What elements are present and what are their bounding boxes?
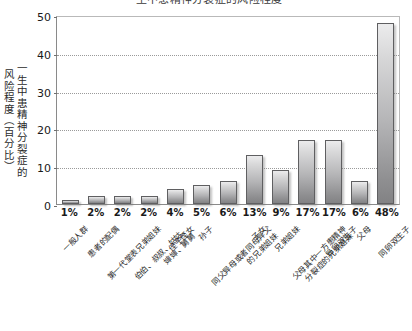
bar-value-label: 9% (268, 207, 294, 221)
bar-slot (83, 17, 109, 204)
x-tick-slot: 患者的配偶 (82, 221, 108, 331)
bar-value-label: 2% (82, 207, 108, 221)
bar-slot (346, 17, 372, 204)
bar-value-labels: 1%2%2%2%4%5%6%13%9%17%17%6%48% (56, 207, 400, 221)
bar[interactable] (193, 185, 210, 204)
bar-slot (241, 17, 267, 204)
x-tick-slot: 伯伯、叔叔、姑姑、婶婶、舅舅 (135, 221, 161, 331)
x-tick-slot: 同父异母或者同母异父的兄弟姐妹 (215, 221, 241, 331)
plot-area: 01020304050 (56, 16, 400, 205)
bar[interactable] (298, 140, 315, 204)
bar-slot (110, 17, 136, 204)
bar[interactable] (141, 196, 158, 204)
bar-slot (136, 17, 162, 204)
bar-slot (268, 17, 294, 204)
x-tick-slot: 异卵双生子 (321, 221, 347, 331)
bar[interactable] (246, 155, 263, 204)
x-tick-slot: 第一代堂表兄弟姐妹 (109, 221, 135, 331)
x-tick-slot: 同卵双生子 (374, 221, 400, 331)
bar-value-label: 2% (109, 207, 135, 221)
bar-value-label: 2% (135, 207, 161, 221)
bar-slot (294, 17, 320, 204)
x-axis-category-labels: 一般人群患者的配偶第一代堂表兄弟姐妹伯伯、叔叔、姑姑、婶婶、舅舅侄子侄女孙子同父… (56, 221, 400, 331)
y-axis-title-line2: 风险程度（百分比） (3, 69, 15, 173)
bar-slot (57, 17, 83, 204)
bar-series (57, 17, 399, 204)
bar-value-label: 13% (241, 207, 267, 221)
bar-value-label: 6% (215, 207, 241, 221)
bar-value-label: 17% (321, 207, 347, 221)
bar[interactable] (351, 181, 368, 204)
bar[interactable] (88, 196, 105, 204)
x-tick-slot: 侄子侄女 (162, 221, 188, 331)
chart-title: 一生中患精神分裂症的风险程度 (0, 0, 407, 6)
bar[interactable] (114, 196, 131, 204)
bar-value-label: 1% (56, 207, 82, 221)
x-tick-slot: 一般人群 (56, 221, 82, 331)
bar[interactable] (62, 200, 79, 204)
bar-value-label: 17% (294, 207, 320, 221)
bar-slot (189, 17, 215, 204)
bar-slot (320, 17, 346, 204)
bar[interactable] (377, 23, 394, 204)
y-axis-title-line1: 一生中患精神分裂症的 (16, 63, 28, 178)
bar-value-label: 48% (374, 207, 400, 221)
y-axis-title: 一生中患精神分裂症的 风险程度（百分比） (0, 28, 30, 213)
x-tick-label: 同卵双生子 (377, 224, 412, 259)
x-tick-label: 父母 (356, 224, 374, 242)
bar-value-label: 5% (188, 207, 214, 221)
bar[interactable] (325, 140, 342, 204)
x-tick-slot: 子女 (241, 221, 267, 331)
x-tick-slot: 父母其中一方患精神分裂症的兄弟姐妹 (294, 221, 320, 331)
bar-value-label: 4% (162, 207, 188, 221)
bar[interactable] (220, 181, 237, 204)
x-tick-label: 子女 (250, 224, 268, 242)
x-tick-slot: 兄弟姐妹 (268, 221, 294, 331)
x-tick-slot: 父母 (347, 221, 373, 331)
bar[interactable] (272, 170, 289, 204)
bar-slot (162, 17, 188, 204)
x-tick-slot: 孙子 (188, 221, 214, 331)
bar-slot (215, 17, 241, 204)
x-tick-label: 孙子 (197, 224, 215, 242)
bar[interactable] (167, 189, 184, 204)
bar-slot (373, 17, 399, 204)
bar-value-label: 6% (347, 207, 373, 221)
